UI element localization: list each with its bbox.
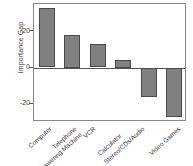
y-tick-label: 0 [14, 63, 30, 70]
bar-computer [39, 8, 55, 68]
plot-inner [34, 4, 185, 120]
y-tick-label: -20 [14, 99, 30, 106]
x-tick-label-line1: Stereo/CDs/Audio [90, 125, 146, 166]
bar-telephone-answering-machine [64, 35, 80, 68]
bar-stereo-cds-audio [141, 68, 157, 97]
bar-video-games [166, 68, 182, 117]
x-tick-label-calculator: Calculator [73, 132, 123, 166]
y-axis-tick-labels: 20 0 -20 [12, 0, 30, 166]
bar-calculator [115, 60, 131, 67]
x-tick-label-line1: Calculator [73, 132, 123, 166]
y-tick-label: 20 [14, 27, 30, 34]
x-tick-label-line1: Video Games [132, 125, 182, 166]
x-tick-label-line1: VCR [59, 125, 97, 160]
x-tick-label-vcr: VCR [59, 125, 97, 160]
zero-baseline [34, 68, 185, 69]
plot-area [33, 3, 186, 121]
x-tick-label-stereo-cds-audio: Stereo/CDs/Audio [90, 125, 146, 166]
x-tick-label-video-games: Video Games [132, 125, 182, 166]
bar-vcr [90, 44, 106, 68]
bar-chart-figure: Importance Gap 20 0 -20 Computer Telepho… [0, 0, 193, 166]
